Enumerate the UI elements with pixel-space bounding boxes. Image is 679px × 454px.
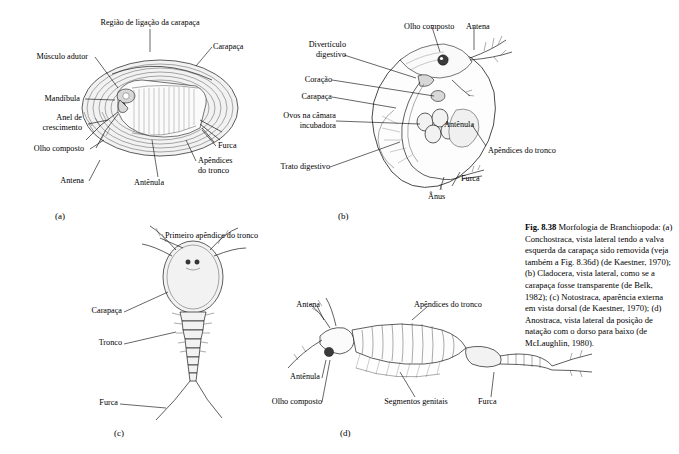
label-b-antenula: Antênula: [444, 120, 474, 130]
label-a-anel-de-crescimento: Anel de crescimento: [6, 113, 82, 132]
label-d-segmentos-genitais: Segmentos genitais: [376, 397, 456, 407]
label-b-ovos-camara-incubadora: Ovos na câmara incubadora: [266, 111, 336, 130]
panel-b-drawing: [330, 27, 512, 190]
caption-title: Morfologia de Branchiopoda:: [558, 222, 660, 232]
label-a-regiao-ligacao-carapaca: Região de ligação da carapaça: [74, 18, 226, 28]
label-b-diverticulo-digestivo: Divertículo digestivo: [298, 40, 346, 59]
label-a-carapaca: Carapaça: [213, 42, 243, 52]
label-a-musculo-adutor: Músculo adutor: [10, 52, 88, 62]
panel-letter-d: (d): [340, 428, 351, 438]
label-a-mandibula: Mandíbula: [14, 94, 80, 104]
label-d-antena: Antena: [272, 300, 320, 310]
label-b-trato-digestivo: Trato digestivo: [258, 162, 330, 172]
label-a-furca: Furca: [218, 141, 237, 151]
label-b-anus: Ânus: [428, 192, 445, 202]
caption-number: Fig. 8.38: [525, 222, 556, 232]
panel-letter-c: (c): [114, 428, 124, 438]
label-d-furca: Furca: [478, 397, 497, 407]
panel-c-drawing: [120, 226, 246, 420]
label-d-olho-composto: Olho composto: [256, 397, 322, 407]
label-b-coracao: Coração: [292, 75, 332, 85]
panel-letter-a: (a): [55, 211, 65, 221]
label-b-furca: Furca: [461, 174, 480, 184]
label-b-carapaca: Carapaça: [286, 92, 332, 102]
label-d-antenula: Antênula: [268, 372, 320, 382]
label-c-carapaca: Carapaça: [66, 306, 122, 316]
figure-page: Região de ligação da carapaça Músculo ad…: [0, 0, 679, 454]
label-b-olho-composto: Olho composto: [404, 22, 454, 32]
label-b-antena: Antena: [466, 22, 490, 32]
label-a-antena: Antena: [28, 176, 84, 186]
panel-letter-b: (b): [338, 211, 349, 221]
label-c-tronco: Tronco: [70, 338, 122, 348]
label-d-apendices-do-tronco: Apêndices do tronco: [414, 300, 482, 310]
label-a-olho-composto: Olho composto: [6, 144, 84, 154]
label-c-furca: Furca: [74, 398, 118, 408]
figure-caption: Fig. 8.38 Morfologia de Branchiopoda: (a…: [525, 222, 675, 350]
label-a-apendices-do-tronco: Apêndices do tronco: [198, 156, 233, 175]
label-c-primeiro-apendice-do-tronco: Primeiro apêndice do tronco: [165, 231, 258, 241]
label-b-apendices-do-tronco: Apêndices do tronco: [488, 146, 556, 156]
label-a-antenula: Antênula: [134, 178, 164, 188]
